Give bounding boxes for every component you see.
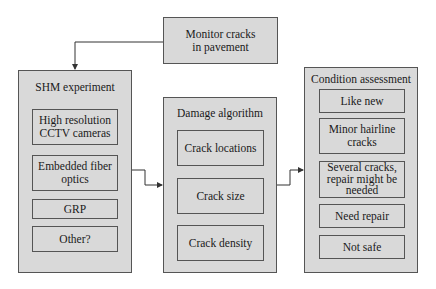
crack-size-label: Crack size — [196, 190, 244, 203]
crack-density-label: Crack density — [189, 237, 253, 250]
monitor-cracks-line-1: Monitor cracks — [186, 28, 256, 41]
monitor-cracks-line-2: in pavement — [192, 41, 249, 54]
condition-assessment-title: Condition assessment — [305, 73, 417, 86]
shm-item-cctv-line-1: High resolution — [39, 114, 111, 127]
arrow-damage-to-condition — [277, 170, 303, 185]
condition-item-not-safe: Not safe — [319, 235, 405, 259]
damage-item-crack-locations: Crack locations — [177, 130, 264, 166]
crack-locations-label: Crack locations — [185, 142, 257, 155]
damage-algorithm-title: Damage algorithm — [164, 107, 276, 120]
damage-item-crack-size: Crack size — [177, 178, 264, 214]
condition-assessment-box: Condition assessment Like new Minor hair… — [304, 67, 418, 273]
shm-item-cctv-line-2: CCTV cameras — [39, 127, 110, 140]
need-repair-label: Need repair — [335, 210, 389, 223]
not-safe-label: Not safe — [343, 241, 382, 254]
arrow-start-to-shm — [75, 42, 163, 69]
minor-hairline-line-1: Minor hairline — [329, 123, 396, 136]
shm-item-grp: GRP — [32, 199, 118, 219]
condition-item-like-new: Like new — [319, 89, 405, 113]
shm-experiment-box: SHM experiment High resolution CCTV came… — [18, 70, 132, 273]
several-cracks-line-3: needed — [346, 185, 379, 197]
like-new-label: Like new — [340, 95, 383, 108]
shm-item-cctv: High resolution CCTV cameras — [32, 109, 118, 145]
minor-hairline-line-2: cracks — [347, 136, 376, 149]
condition-item-minor-hairline: Minor hairline cracks — [319, 118, 405, 154]
shm-experiment-title: SHM experiment — [19, 81, 131, 94]
shm-item-grp-label: GRP — [64, 203, 86, 216]
shm-item-other-label: Other? — [59, 233, 90, 246]
monitor-cracks-box: Monitor cracks in pavement — [163, 17, 278, 64]
shm-item-fiber-optics: Embedded fiber optics — [32, 155, 118, 191]
condition-item-several-cracks: Several cracks, repair might be needed — [319, 161, 405, 198]
condition-item-need-repair: Need repair — [319, 204, 405, 228]
arrow-shm-to-damage — [131, 170, 162, 185]
shm-item-fiber-line-1: Embedded fiber — [38, 160, 112, 173]
shm-item-other: Other? — [32, 226, 118, 252]
damage-algorithm-box: Damage algorithm Crack locations Crack s… — [163, 97, 277, 273]
damage-item-crack-density: Crack density — [177, 225, 264, 261]
shm-item-fiber-line-2: optics — [61, 173, 88, 186]
